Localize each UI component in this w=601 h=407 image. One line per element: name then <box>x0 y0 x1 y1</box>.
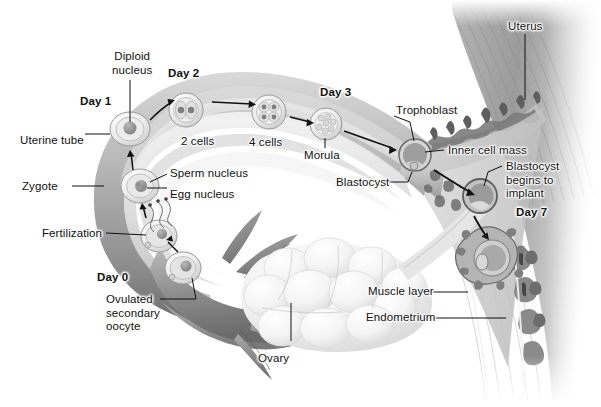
label-diploid-nucleus: Diploid nucleus <box>112 50 152 77</box>
cell-morula <box>310 108 342 140</box>
label-day-2: Day 2 <box>168 67 199 81</box>
label-sperm-nucleus: Sperm nucleus <box>170 167 248 181</box>
label-4-cells: 4 cells <box>249 136 282 150</box>
label-blastocyst: Blastocyst <box>336 176 389 190</box>
anatomical-illustration <box>0 0 601 407</box>
label-ovary: Ovary <box>258 352 289 366</box>
label-morula: Morula <box>304 149 340 163</box>
label-endometrium: Endometrium <box>366 311 436 325</box>
label-2-cells: 2 cells <box>181 135 214 149</box>
label-uterine-tube: Uterine tube <box>20 134 84 148</box>
label-day-7: Day 7 <box>516 206 547 220</box>
label-day-3: Day 3 <box>320 86 351 100</box>
cell-4-cell-stage <box>252 95 286 129</box>
label-trophoblast: Trophoblast <box>396 104 457 118</box>
cell-zygote <box>121 169 159 203</box>
cell-blastocyst-free <box>463 179 497 213</box>
label-blastocyst-implants: Blastocyst begins to implant <box>506 160 559 201</box>
cell-2-cell-stage <box>169 93 203 127</box>
label-day-1: Day 1 <box>80 95 111 109</box>
label-uterus: Uterus <box>508 20 542 34</box>
label-inner-cell-mass: Inner cell mass <box>448 144 527 158</box>
label-muscle-layer: Muscle layer <box>368 285 434 299</box>
label-ovulated-oocyte: Ovulated secondary oocyte <box>106 293 160 334</box>
label-egg-nucleus: Egg nucleus <box>170 188 234 202</box>
label-day-0: Day 0 <box>97 271 128 285</box>
diagram-canvas: Diploid nucleus Day 2 Day 1 Day 3 Uterin… <box>0 0 601 407</box>
cell-ovulated-oocyte <box>165 252 201 284</box>
label-zygote: Zygote <box>22 180 58 194</box>
cell-blastocyst <box>399 139 431 171</box>
label-fertilization: Fertilization <box>42 227 102 241</box>
